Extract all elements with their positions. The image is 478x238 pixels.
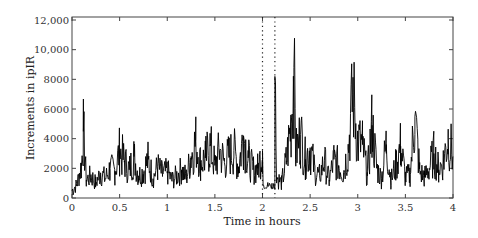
- vertical-markers: [263, 17, 275, 198]
- x-tick-label: 0: [69, 202, 75, 213]
- x-axis-title: Time in hours: [223, 215, 300, 228]
- x-tick-label: 1.5: [207, 202, 223, 213]
- y-tick-label: 10,000: [34, 44, 69, 55]
- x-tick-label: 3: [355, 202, 361, 213]
- x-tick-label: 1: [164, 202, 170, 213]
- y-tick-label: 4000: [44, 133, 69, 144]
- x-tick-label: 2.5: [302, 202, 318, 213]
- x-tick-label: 3.5: [397, 202, 413, 213]
- y-tick-label: 2000: [44, 163, 69, 174]
- x-tick-label: 0.5: [112, 202, 128, 213]
- y-axis-title: Increments in ipIR: [24, 55, 37, 160]
- x-tick-label: 4: [450, 202, 456, 213]
- y-tick-label: 8000: [44, 74, 69, 85]
- x-tick-label: 2: [259, 202, 265, 213]
- line-chart: 0200040006000800010,00012,000 00.511.522…: [0, 0, 478, 238]
- y-tick-label: 12,000: [34, 15, 69, 26]
- y-tick-label: 6000: [44, 104, 69, 115]
